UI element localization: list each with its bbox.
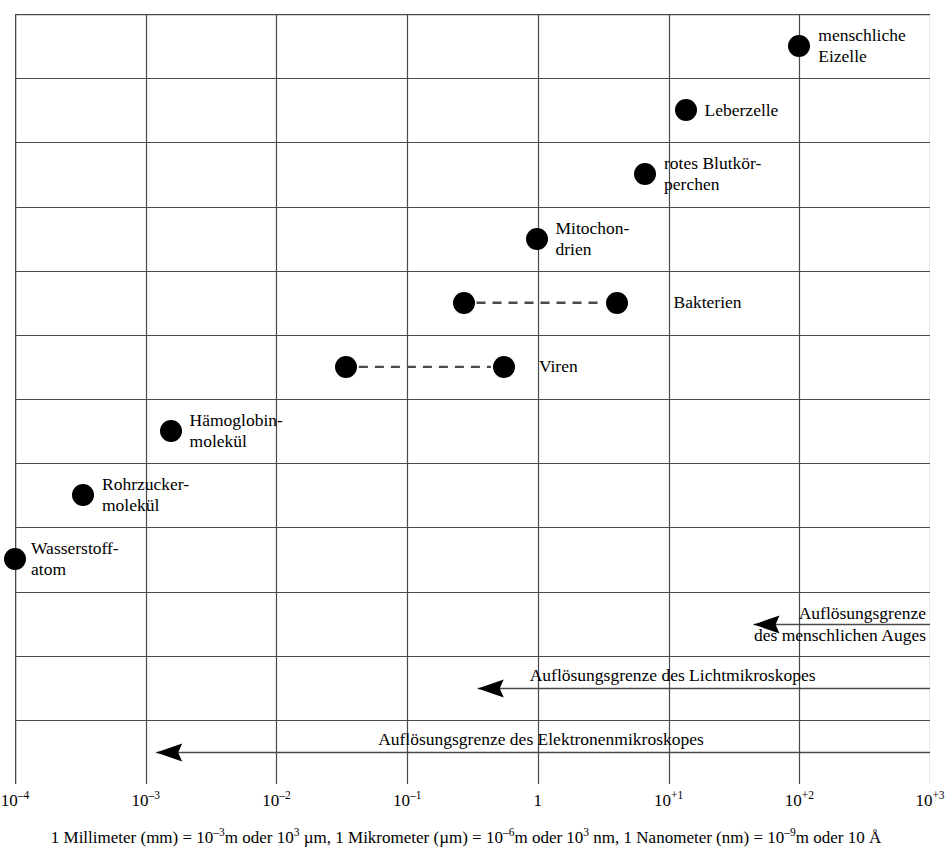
x-tick-base: 10 xyxy=(1,791,18,810)
x-tick-base: 10 xyxy=(785,791,802,810)
data-point-rohrzuckermolek-l xyxy=(72,484,94,506)
data-point-mitochondrien xyxy=(526,228,548,250)
x-tick-base: 10 xyxy=(131,791,148,810)
caption-segment-9: –9 xyxy=(784,826,796,838)
x-tick-base: 10 xyxy=(262,791,279,810)
x-axis-tick-labels: 10–410–310–210–1110+110+210+3 xyxy=(0,784,932,824)
x-tick-6: 10+2 xyxy=(785,791,814,811)
data-point-bakterien-max xyxy=(606,292,628,314)
label-rohrzuckermolek-l: Rohrzucker- molekül xyxy=(102,474,189,516)
x-tick-0: 10–4 xyxy=(1,791,30,811)
label-viren: Viren xyxy=(539,356,578,377)
plot-area: menschliche EizelleLeberzellerotes Blutk… xyxy=(15,14,930,784)
limit-10-label: Auflösungsgrenze des Lichtmikroskopes xyxy=(530,664,816,686)
data-point-viren-max xyxy=(493,356,515,378)
label-h-moglobinmolek-l: Hämoglobin- molekül xyxy=(190,410,283,452)
caption-segment-0: 1 Millimeter (mm) = 10 xyxy=(51,828,214,847)
data-point-menschliche-eizelle xyxy=(788,35,810,57)
x-tick-base: 10 xyxy=(393,791,410,810)
x-tick-base: 10 xyxy=(654,791,671,810)
label-mitochondrien: Mitochon- drien xyxy=(556,218,630,260)
limit-9-label: Auflösungsgrenze des menschlichen Auges xyxy=(646,602,926,646)
data-point-wasserstoffatom xyxy=(4,548,26,570)
x-tick-exponent: –1 xyxy=(410,789,422,801)
data-point-bakterien-min xyxy=(453,292,475,314)
label-rotes-blutk-rperchen: rotes Blutkör- perchen xyxy=(664,153,761,195)
limit-11-label: Auflösungsgrenze des Elektronenmikroskop… xyxy=(378,728,704,750)
caption-segment-6: m oder 10 xyxy=(514,828,583,847)
x-tick-2: 10–2 xyxy=(262,791,291,811)
x-tick-exponent: +3 xyxy=(932,789,944,801)
caption-segment-1: –3 xyxy=(213,826,225,838)
x-tick-exponent: –4 xyxy=(18,789,30,801)
label-leberzelle: Leberzelle xyxy=(705,100,779,121)
data-point-viren-min xyxy=(335,356,357,378)
x-tick-exponent: –3 xyxy=(148,789,160,801)
x-tick-exponent: –2 xyxy=(279,789,291,801)
unit-conversion-caption: 1 Millimeter (mm) = 10–3m oder 103 µm, 1… xyxy=(0,828,932,848)
x-tick-5: 10+1 xyxy=(654,791,683,811)
x-tick-7: 10+3 xyxy=(915,791,944,811)
data-point-leberzelle xyxy=(675,99,697,121)
label-menschliche-eizelle: menschliche Eizelle xyxy=(818,25,905,67)
x-tick-base: 10 xyxy=(915,791,932,810)
caption-segment-2: m oder 10 xyxy=(225,828,294,847)
data-point-rotes-blutk-rperchen xyxy=(634,163,656,185)
caption-segment-8: nm, 1 Nanometer (nm) = 10 xyxy=(589,828,784,847)
label-wasserstoffatom: Wasserstoff- atom xyxy=(31,538,119,580)
caption-segment-5: –6 xyxy=(503,826,515,838)
x-tick-exponent: +2 xyxy=(802,789,814,801)
label-bakterien: Bakterien xyxy=(674,292,742,313)
caption-segment-4: µm, 1 Mikrometer (µm) = 10 xyxy=(300,828,503,847)
data-point-h-moglobinmolek-l xyxy=(160,420,182,442)
caption-segment-10: m oder 10 Å xyxy=(796,828,881,847)
x-tick-4: 1 xyxy=(534,791,543,811)
x-tick-1: 10–3 xyxy=(131,791,160,811)
x-tick-base: 1 xyxy=(534,791,543,810)
x-tick-exponent: +1 xyxy=(671,789,683,801)
x-tick-3: 10–1 xyxy=(393,791,422,811)
